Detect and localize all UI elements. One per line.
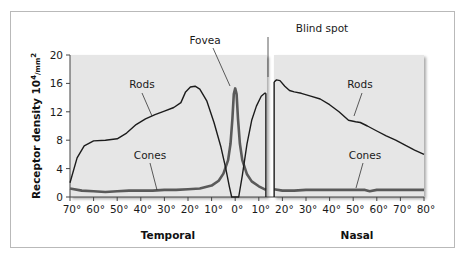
cones-temporal-label: Cones [134, 149, 166, 161]
x-tick-label: 60° [369, 203, 388, 215]
nasal-panel [274, 55, 424, 197]
x-tick-label: 20° [275, 203, 294, 215]
nasal-label: Nasal [341, 229, 374, 241]
rods-nasal-label: Rods [347, 78, 372, 90]
y-tick-label: 20 [50, 49, 63, 61]
y-tick-label: 0 [56, 191, 63, 203]
y-axis-title: Receptor density 104/mm2 [30, 53, 42, 199]
cones-nasal-label: Cones [349, 149, 381, 161]
x-tick-label: 30° [299, 203, 318, 215]
x-tick-label: 10° [204, 203, 223, 215]
temporal-label: Temporal [141, 229, 195, 241]
y-tick-label: 16 [50, 77, 64, 89]
x-tick-label: 20° [181, 203, 200, 215]
x-tick-label: 30° [157, 203, 176, 215]
blind-spot-label: Blind spot [296, 22, 348, 34]
x-tick-label: 50° [346, 203, 365, 215]
fovea-label: Fovea [189, 34, 220, 46]
x-tick-label: 0° [231, 203, 243, 215]
x-tick-label: 10° [251, 203, 270, 215]
x-tick-label: 80° [417, 203, 436, 215]
x-tick-label: 70° [393, 203, 412, 215]
x-tick-label: 40° [322, 203, 341, 215]
y-tick-label: 8 [56, 134, 63, 146]
y-tick-label: 12 [50, 106, 63, 118]
x-tick-label: 40° [133, 203, 152, 215]
x-tick-label: 60° [86, 203, 105, 215]
x-tick-label: 50° [110, 203, 129, 215]
y-tick-label: 4 [56, 163, 63, 175]
rods-temporal-label: Rods [129, 78, 154, 90]
x-tick-label: 70° [63, 203, 82, 215]
